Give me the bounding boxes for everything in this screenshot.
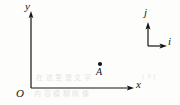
basis-vector-i-label: i (168, 36, 171, 47)
point-a-label: A (96, 67, 102, 77)
coordinate-system-figure: 在 这 里 是 文 字 内 容 模 糊 映 像 [ 3 ] · y x (0, 0, 180, 105)
basis-vector-j (146, 22, 151, 46)
origin-label: O (16, 88, 24, 99)
x-axis (31, 86, 134, 91)
x-axis-label: x (136, 79, 141, 90)
y-axis-label: y (25, 1, 30, 12)
y-axis (29, 11, 34, 88)
basis-vector-i (148, 44, 167, 49)
figure-canvas (0, 0, 180, 105)
basis-vector-j-label: j (144, 7, 147, 18)
